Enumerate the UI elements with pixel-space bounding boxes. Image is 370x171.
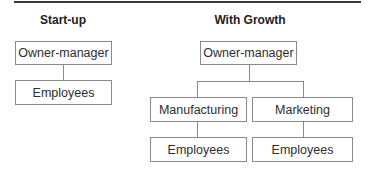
marketing-box: Marketing <box>252 97 353 122</box>
manufacturing-box: Manufacturing <box>150 97 247 122</box>
manufacturing-employees-box: Employees <box>150 137 247 162</box>
growth-branch-line <box>197 81 304 82</box>
growth-title: With Growth <box>195 13 305 27</box>
top-rule <box>14 1 361 3</box>
growth-owner-manager-box: Owner-manager <box>200 41 297 65</box>
manufacturing-employees-connector <box>197 122 198 137</box>
marketing-connector <box>303 81 304 97</box>
growth-owner-connector <box>249 65 250 81</box>
manufacturing-connector <box>197 81 198 97</box>
marketing-employees-connector <box>303 122 304 137</box>
marketing-employees-box: Employees <box>252 137 353 162</box>
startup-title: Start-up <box>14 13 112 27</box>
startup-owner-manager-box: Owner-manager <box>15 41 112 65</box>
startup-employees-box: Employees <box>15 80 112 105</box>
startup-connector <box>63 65 64 80</box>
